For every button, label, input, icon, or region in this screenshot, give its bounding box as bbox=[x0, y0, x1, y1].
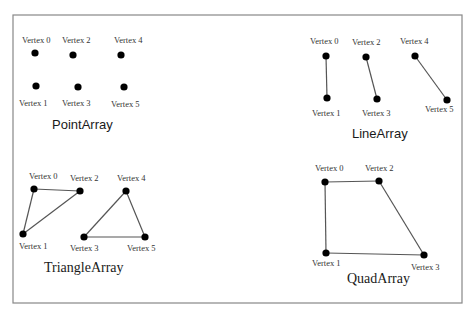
vertex-label: Vertex 0 bbox=[310, 36, 339, 46]
vertex-label: Vertex 2 bbox=[62, 35, 91, 45]
vertex-dot-icon bbox=[30, 185, 37, 192]
vertex-label: Vertex 0 bbox=[22, 35, 51, 45]
vertex-label: Vertex 2 bbox=[70, 173, 99, 183]
quad-array-title: QuadArray bbox=[347, 271, 410, 286]
vertex-dot-icon bbox=[322, 249, 329, 256]
vertex-label: Vertex 2 bbox=[365, 163, 394, 173]
vertex-dot-icon bbox=[375, 177, 382, 184]
vertex-dot-icon bbox=[443, 96, 450, 103]
vertex-dot-icon bbox=[76, 187, 83, 194]
vertex-dot-icon bbox=[323, 94, 330, 101]
vertex-dot-icon bbox=[411, 52, 418, 59]
vertex-label: Vertex 4 bbox=[400, 36, 429, 46]
vertex-label: Vertex 1 bbox=[312, 258, 341, 268]
line-array-title: LineArray bbox=[352, 126, 408, 141]
vertex-dot-icon bbox=[420, 251, 427, 258]
vertex-label: Vertex 5 bbox=[111, 99, 140, 109]
vertex-dot-icon bbox=[74, 83, 81, 90]
vertex-dot-icon bbox=[80, 233, 87, 240]
vertex-label: Vertex 1 bbox=[19, 241, 48, 251]
vertex-label: Vertex 3 bbox=[62, 98, 91, 108]
vertex-dot-icon bbox=[321, 178, 328, 185]
geometry-array-diagram: Vertex 0Vertex 1Vertex 2Vertex 3Vertex 4… bbox=[0, 0, 472, 316]
vertex-label: Vertex 1 bbox=[19, 98, 48, 108]
vertex-label: Vertex 4 bbox=[117, 173, 146, 183]
vertex-label: Vertex 3 bbox=[70, 243, 99, 253]
vertex-dot-icon bbox=[69, 51, 76, 58]
vertex-dot-icon bbox=[19, 230, 26, 237]
vertex-label: Vertex 1 bbox=[312, 108, 341, 118]
vertex-dot-icon bbox=[373, 95, 380, 102]
vertex-dot-icon bbox=[322, 52, 329, 59]
vertex-label: Vertex 0 bbox=[29, 171, 58, 181]
vertex-dot-icon bbox=[120, 83, 127, 90]
vertex-label: Vertex 0 bbox=[315, 163, 344, 173]
vertex-label: Vertex 3 bbox=[411, 262, 440, 272]
vertex-dot-icon bbox=[141, 233, 148, 240]
vertex-label: Vertex 3 bbox=[362, 108, 391, 118]
triangle-array-title: TriangleArray bbox=[44, 260, 124, 275]
vertex-dot-icon bbox=[117, 51, 124, 58]
vertex-label: Vertex 2 bbox=[352, 37, 381, 47]
vertex-dot-icon bbox=[31, 49, 38, 56]
vertex-label: Vertex 4 bbox=[114, 35, 143, 45]
vertex-label: Vertex 5 bbox=[127, 243, 156, 253]
vertex-dot-icon bbox=[362, 53, 369, 60]
vertex-dot-icon bbox=[32, 82, 39, 89]
vertex-label: Vertex 5 bbox=[425, 104, 454, 114]
point-array-title: PointArray bbox=[52, 117, 113, 132]
vertex-dot-icon bbox=[122, 187, 129, 194]
